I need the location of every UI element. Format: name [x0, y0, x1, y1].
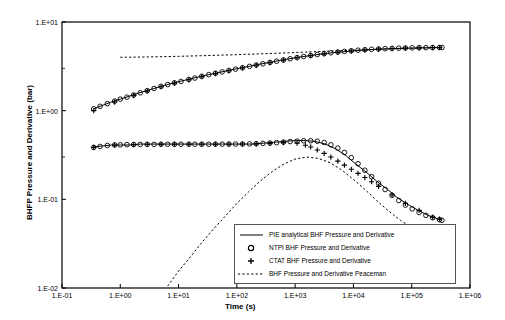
- x-tick-label: 1.E+02: [226, 292, 248, 299]
- legend-item: NTPI BHF Pressure and Derivative: [237, 241, 453, 254]
- x-tick-label: 1.E+04: [342, 292, 364, 299]
- x-tick-label: 1.E+01: [167, 292, 189, 299]
- y-tick-label: 1.E+01: [18, 19, 58, 26]
- x-tick-label: 1.E-01: [52, 292, 73, 299]
- x-tick-label: 1.E+00: [109, 292, 131, 299]
- legend-item-label: CTAT BHF Pressure and Derivative: [269, 254, 371, 267]
- x-tick-label: 1.E+06: [459, 292, 481, 299]
- chart-legend: PIE analytical BHF Pressure and Derivati…: [234, 224, 456, 284]
- legend-item-label: PIE analytical BHF Pressure and Derivati…: [269, 228, 394, 241]
- legend-circle-marker-icon: [237, 241, 269, 254]
- legend-item-label: NTPI BHF Pressure and Derivative: [269, 241, 370, 254]
- legend-item: CTAT BHF Pressure and Derivative: [237, 254, 453, 267]
- legend-solid-line-icon: [237, 228, 269, 241]
- y-tick-label: 1.E+00: [18, 107, 58, 114]
- legend-item: BHF Pressure and Derivative Peaceman: [237, 267, 453, 280]
- legend-item-label: BHF Pressure and Derivative Peaceman: [269, 267, 386, 280]
- legend-dashed-line-icon: [237, 267, 269, 280]
- chart-figure: BHFP Pressure and Derivative (bar) Time …: [0, 0, 505, 320]
- y-axis-title: BHFP Pressure and Derivative (bar): [25, 63, 34, 243]
- x-axis-title: Time (s): [225, 302, 256, 311]
- x-tick-label: 1.E+05: [401, 292, 423, 299]
- x-tick-label: 1.E+03: [284, 292, 306, 299]
- legend-plus-marker-icon: [237, 254, 269, 267]
- legend-item: PIE analytical BHF Pressure and Derivati…: [237, 228, 453, 241]
- y-tick-label: 1.E-01: [18, 196, 58, 203]
- y-tick-label: 1.E-02: [18, 285, 58, 292]
